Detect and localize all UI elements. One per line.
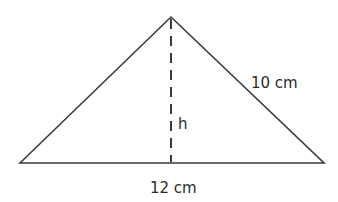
base-label: 12 cm	[150, 179, 197, 197]
height-label: h	[178, 115, 188, 133]
side-label: 10 cm	[251, 74, 298, 92]
triangle-diagram: 10 cm h 12 cm	[0, 0, 338, 202]
